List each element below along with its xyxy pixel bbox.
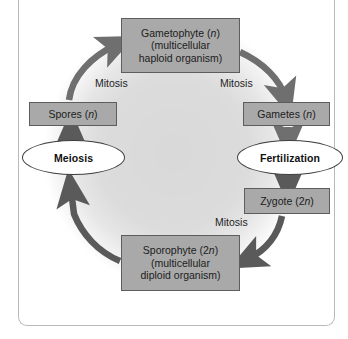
node-zygote: Zygote (2n)	[244, 188, 330, 214]
diagram-canvas: Gametophyte (n) (multicellular haploid o…	[0, 0, 348, 339]
node-gametes-label: Gametes (n)	[257, 108, 315, 121]
node-zygote-label: Zygote (2n)	[260, 195, 314, 208]
label-mitosis-bottom-right: Mitosis	[215, 216, 248, 228]
node-sporophyte-line2: (multicellular	[151, 257, 210, 270]
node-gametophyte: Gametophyte (n) (multicellular haploid o…	[121, 18, 240, 73]
label-mitosis-top-left: Mitosis	[95, 77, 128, 89]
node-fertilization-label: Fertilization	[260, 152, 320, 164]
arrow-gametophyte-to-gametes	[240, 52, 285, 97]
node-spores-label: Spores (n)	[48, 108, 97, 121]
node-meiosis: Meiosis	[22, 140, 125, 175]
arrow-sporophyte-to-meiosis	[71, 190, 120, 261]
node-gametophyte-line1: Gametophyte (n)	[141, 27, 220, 40]
node-meiosis-label: Meiosis	[54, 152, 93, 164]
label-mitosis-top-right: Mitosis	[220, 77, 253, 89]
node-gametes: Gametes (n)	[243, 102, 330, 126]
node-gametophyte-line2: (multicellular	[151, 39, 210, 52]
node-sporophyte-line3: diploid organism)	[141, 269, 221, 282]
arrow-zygote-to-sporophyte	[248, 216, 282, 259]
node-spores: Spores (n)	[29, 102, 117, 126]
node-sporophyte-line1: Sporophyte (2n)	[143, 244, 218, 257]
node-fertilization: Fertilization	[237, 140, 343, 175]
arrow-spores-to-gametophyte	[69, 45, 116, 100]
node-sporophyte: Sporophyte (2n) (multicellular diploid o…	[121, 235, 240, 291]
node-gametophyte-line3: haploid organism)	[139, 52, 222, 65]
